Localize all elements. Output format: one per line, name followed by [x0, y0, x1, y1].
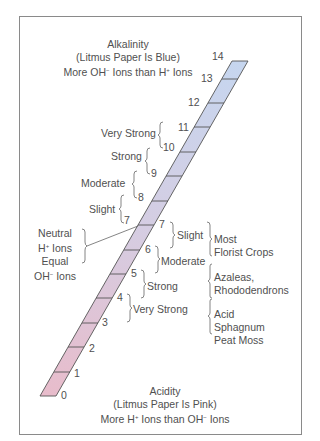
acid-slight: Slight	[177, 229, 203, 242]
ph-number-1: 1	[74, 367, 80, 379]
ph-number-0: 0	[61, 389, 67, 401]
ph-number-13: 13	[201, 72, 213, 84]
alkaline-slight: Slight	[89, 203, 115, 216]
alkalinity-title-line1: Alkalinity	[58, 38, 198, 51]
ph-number-6: 6	[145, 243, 151, 255]
alkalinity-title: Alkalinity (Litmus Paper Is Blue) More O…	[58, 38, 198, 79]
ph-number-5: 5	[131, 267, 137, 279]
ph-number-14: 14	[212, 50, 224, 62]
alkalinity-title-line3: More OH− Ions than H+ Ions	[58, 64, 198, 79]
plant-brackets	[207, 222, 212, 334]
ph-number-4: 4	[117, 291, 123, 303]
ph-number-8: 8	[138, 191, 144, 203]
ph-number-10: 10	[163, 141, 175, 153]
acid-strong: Strong	[147, 280, 178, 293]
alkaline-moderate: Moderate	[81, 177, 125, 190]
ph-number-7-right: 7	[159, 218, 165, 230]
ph-number-11: 11	[178, 121, 189, 133]
plants-florist-crops: Most Florist Crops	[214, 233, 274, 259]
alkaline-very-strong: Very Strong	[101, 127, 156, 140]
acid-very-strong: Very Strong	[133, 303, 188, 316]
acidity-title: Acidity (Litmus Paper Is Pink) More H+ I…	[95, 385, 235, 426]
ph-number-9: 9	[151, 167, 157, 179]
neutral-label: Neutral H+ Ions Equal OH− Ions	[30, 227, 80, 283]
ph-number-2: 2	[89, 342, 95, 354]
plants-azaleas: Azaleas, Rhododendrons	[214, 271, 289, 297]
acidity-title-line3: More H+ Ions than OH− Ions	[95, 411, 235, 426]
ph-number-7-left: 7	[124, 214, 130, 226]
ph-number-3: 3	[102, 316, 108, 328]
plants-peat-moss: Acid Sphagnum Peat Moss	[214, 308, 265, 347]
alkalinity-title-line2: (Litmus Paper Is Blue)	[58, 51, 198, 64]
acidity-title-line2: (Litmus Paper Is Pink)	[95, 398, 235, 411]
ph-number-12: 12	[188, 96, 200, 108]
acidity-title-line1: Acidity	[95, 385, 235, 398]
acid-moderate: Moderate	[161, 255, 205, 268]
alkaline-strong: Strong	[111, 150, 142, 163]
